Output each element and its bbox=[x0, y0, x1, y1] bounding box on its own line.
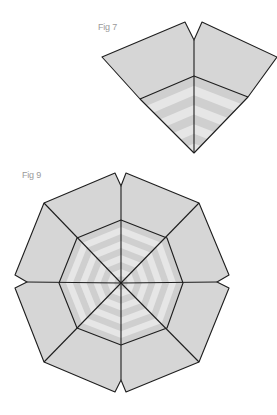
fig7-kite-block bbox=[102, 22, 277, 153]
quilt-diagram bbox=[0, 0, 277, 415]
fig9-octagon-block bbox=[15, 173, 229, 392]
